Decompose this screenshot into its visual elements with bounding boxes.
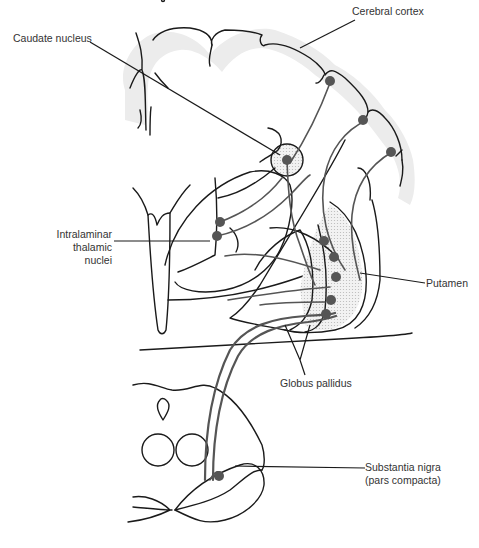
putamen-neuron-3: [331, 272, 341, 282]
third-ventricle: [133, 185, 190, 334]
label-substantia-nigra-line1: Substantia nigra: [365, 461, 441, 474]
cortical-neuron-1: [325, 76, 335, 86]
putamen-neuron-1: [319, 236, 329, 246]
leader-putamen: [360, 273, 425, 283]
leader-cortex: [300, 20, 355, 48]
label-substantia-nigra: Substantia nigra (pars compacta): [365, 461, 441, 487]
cerebral-cortex: [123, 28, 415, 205]
label-caudate-nucleus: Caudate nucleus: [13, 32, 92, 45]
cortical-neuron-3: [386, 147, 396, 157]
putamen-neuron-4: [326, 295, 336, 305]
putamen-neuron-2: [329, 252, 339, 262]
putamen: [230, 140, 380, 333]
thalamic-neuron-2: [212, 231, 222, 241]
label-substantia-nigra-line2: (pars compacta): [365, 474, 441, 487]
leader-caudate: [90, 42, 280, 155]
cortical-neuron-2: [358, 115, 368, 125]
label-intralaminar-line3: nuclei: [40, 254, 112, 267]
caudate-neuron: [282, 155, 292, 165]
label-intralaminar-line1: Intralaminar: [40, 228, 112, 241]
thalamic-neuron-1: [215, 217, 225, 227]
internal-capsule-line: [140, 333, 412, 350]
leader-substantia-nigra: [235, 466, 365, 468]
label-globus-pallidus: Globus pallidus: [280, 377, 352, 390]
putamen-neuron-5: [321, 309, 331, 319]
nigral-neuron: [214, 471, 224, 481]
label-cerebral-cortex: Cerebral cortex: [352, 5, 424, 18]
label-putamen: Putamen: [426, 277, 468, 290]
label-intralaminar-line2: thalamic: [40, 241, 112, 254]
label-intralaminar-thalamic-nuclei: Intralaminar thalamic nuclei: [40, 228, 112, 267]
nigrostriatal-tract: [205, 313, 336, 480]
